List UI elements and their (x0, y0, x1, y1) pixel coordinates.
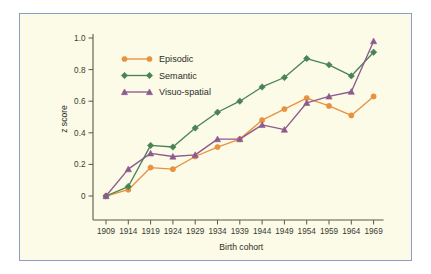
data-point-marker (371, 38, 377, 44)
legend-marker (146, 72, 152, 78)
x-tick-label: 1934 (208, 227, 227, 236)
legend-label: Episodic (159, 54, 194, 64)
legend-item-episodic: Episodic (122, 54, 194, 64)
data-point-marker (282, 107, 287, 112)
legend-item-visuo-spatial: Visuo-spatial (121, 87, 211, 97)
legend-label: Semantic (159, 71, 197, 81)
x-axis: 1909191419191924192919341939194419491954… (93, 220, 384, 236)
x-axis-title: Birth cohort (219, 242, 264, 252)
line-chart: 00.20.40.60.81.0z score19091914191919241… (20, 14, 410, 259)
x-tick-label: 1909 (97, 227, 116, 236)
data-point-marker (348, 89, 354, 95)
series-line (106, 96, 374, 196)
legend-marker (121, 72, 127, 78)
data-point-marker (148, 165, 153, 170)
data-point-marker (147, 142, 153, 148)
x-tick-label: 1949 (275, 227, 294, 236)
legend: EpisodicSemanticVisuo-spatial (121, 54, 211, 97)
x-tick-label: 1914 (119, 227, 138, 236)
x-tick-label: 1929 (186, 227, 205, 236)
figure-frame: 00.20.40.60.81.0z score19091914191919241… (19, 13, 412, 261)
data-point-marker (326, 62, 332, 68)
series-semantic (103, 49, 377, 199)
data-point-marker (326, 103, 331, 108)
x-tick-label: 1919 (141, 227, 160, 236)
y-axis: 00.20.40.60.81.0 (74, 34, 93, 220)
x-tick-label: 1939 (231, 227, 250, 236)
x-tick-label: 1964 (342, 227, 361, 236)
series-episodic (103, 94, 376, 199)
y-tick-label: 0.8 (74, 66, 86, 75)
y-tick-label: 0.2 (74, 160, 86, 169)
legend-marker (122, 56, 127, 61)
x-tick-label: 1969 (364, 227, 383, 236)
data-point-marker (237, 98, 243, 104)
data-point-marker (371, 94, 376, 99)
x-tick-label: 1954 (298, 227, 317, 236)
legend-marker (147, 56, 152, 61)
y-axis-title: z score (59, 105, 69, 133)
x-tick-label: 1944 (253, 227, 272, 236)
data-point-marker (215, 144, 220, 149)
series-line (106, 52, 374, 196)
figure-root: 00.20.40.60.81.0z score19091914191919241… (0, 0, 431, 274)
x-tick-label: 1959 (320, 227, 339, 236)
data-point-marker (349, 113, 354, 118)
y-tick-label: 0.4 (74, 129, 86, 138)
data-point-marker (170, 167, 175, 172)
x-tick-label: 1924 (164, 227, 183, 236)
y-tick-label: 0 (81, 192, 86, 201)
y-tick-label: 0.6 (74, 97, 86, 106)
y-tick-label: 1.0 (74, 34, 86, 43)
legend-label: Visuo-spatial (159, 87, 211, 97)
data-point-marker (259, 84, 265, 90)
legend-item-semantic: Semantic (121, 71, 197, 81)
